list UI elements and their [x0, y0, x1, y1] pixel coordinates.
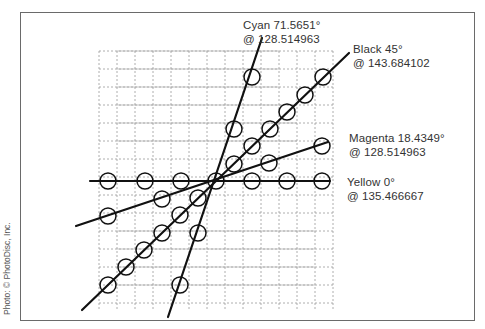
yellow-frequency-text: @ 135.466667: [347, 189, 424, 203]
solid-grid-overlay: [117, 51, 315, 285]
yellow-angle-text: Yellow 0°: [347, 175, 424, 189]
cyan-screen-line: [168, 38, 262, 317]
black-frequency-text: @ 143.684102: [353, 56, 430, 70]
magenta-angle-text: Magenta 18.4349°: [349, 131, 445, 145]
photo-credit: Photo: © PhotoDisc, Inc.: [2, 222, 12, 315]
cyan-dot: [244, 69, 260, 85]
black-angle-text: Black 45°: [353, 42, 430, 56]
cyan-frequency-text: @ 128.514963: [243, 32, 321, 46]
yellow-label: Yellow 0° @ 135.466667: [347, 175, 424, 203]
black-label: Black 45° @ 143.684102: [353, 42, 430, 70]
magenta-frequency-text: @ 128.514963: [349, 145, 445, 159]
cyan-label: Cyan 71.5651° @ 128.514963: [243, 18, 321, 46]
cyan-angle-text: Cyan 71.5651°: [243, 18, 321, 32]
magenta-label: Magenta 18.4349° @ 128.514963: [349, 131, 445, 159]
